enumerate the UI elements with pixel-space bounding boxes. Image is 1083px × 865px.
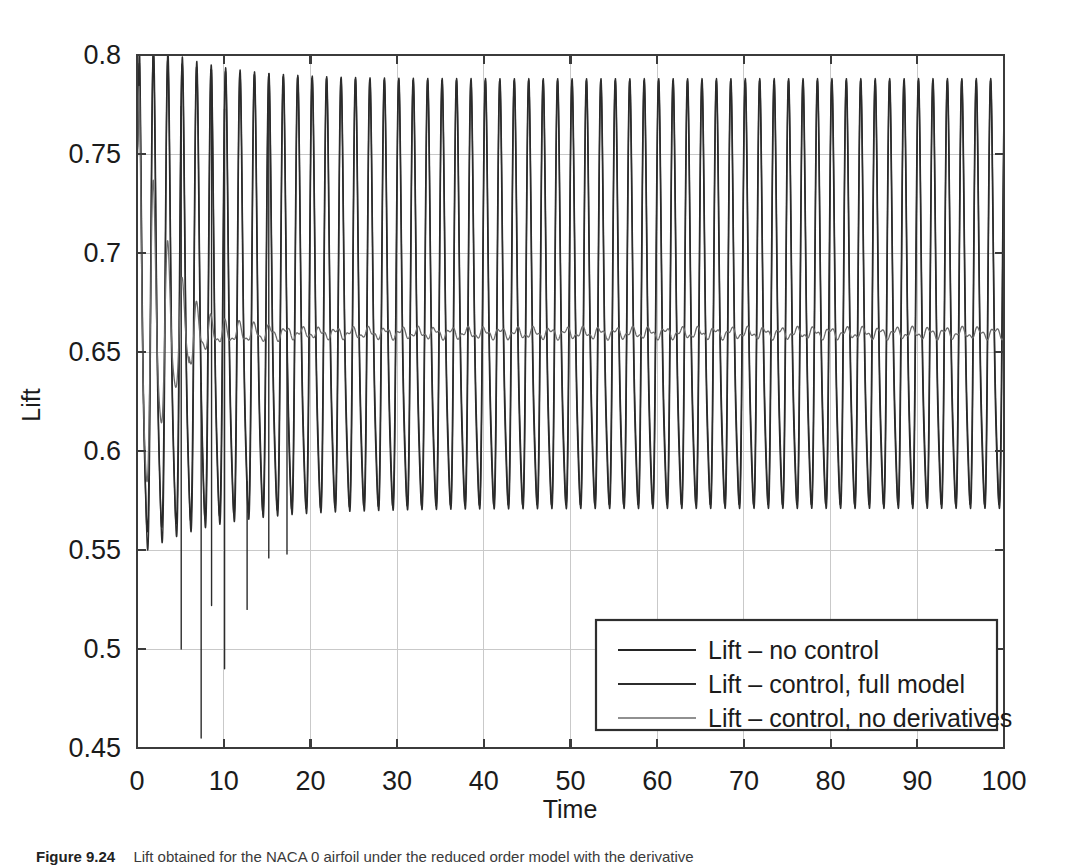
legend-label: Lift – control, full model — [708, 670, 965, 698]
y-tick-label: 0.7 — [83, 238, 121, 268]
y-tick-label: 0.8 — [83, 40, 121, 70]
figure-caption: Figure 9.24 Lift obtained for the NACA 0… — [36, 848, 694, 865]
y-tick-label: 0.6 — [83, 436, 121, 466]
chart-legend[interactable]: Lift – no controlLift – control, full mo… — [596, 620, 1012, 732]
x-tick-label: 0 — [129, 766, 144, 796]
x-tick-label: 40 — [469, 766, 499, 796]
x-axis-title: Time — [543, 795, 598, 823]
legend-label: Lift – no control — [708, 636, 879, 664]
caption-line: Figure 9.24 Lift obtained for the NACA 0… — [36, 848, 694, 865]
y-tick-label: 0.75 — [68, 139, 121, 169]
y-axis-title: Lift — [17, 388, 45, 421]
y-tick-label: 0.5 — [83, 634, 121, 664]
caption-body: Lift obtained for the NACA 0 airfoil und… — [133, 848, 693, 865]
x-tick-label: 90 — [902, 766, 932, 796]
x-tick-label: 80 — [816, 766, 846, 796]
y-tick-label: 0.65 — [68, 337, 121, 367]
x-tick-label: 20 — [295, 766, 325, 796]
x-tick-label: 10 — [209, 766, 239, 796]
legend-label: Lift – control, no derivatives — [708, 704, 1012, 732]
caption-prefix: Figure 9.24 — [36, 848, 116, 865]
x-tick-label: 100 — [981, 766, 1026, 796]
lift-time-chart: 0102030405060708090100 0.450.50.550.60.6… — [0, 0, 1083, 865]
x-tick-label: 60 — [642, 766, 672, 796]
y-tick-label: 0.45 — [68, 733, 121, 763]
x-tick-label: 50 — [555, 766, 585, 796]
figure-container: 0102030405060708090100 0.450.50.550.60.6… — [0, 0, 1083, 865]
x-tick-label: 30 — [382, 766, 412, 796]
x-tick-label: 70 — [729, 766, 759, 796]
y-tick-label: 0.55 — [68, 535, 121, 565]
